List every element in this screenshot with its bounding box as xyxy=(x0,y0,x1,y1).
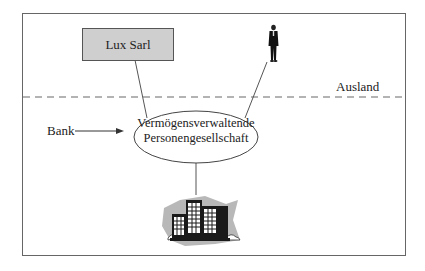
abroad-label: Ausland xyxy=(336,80,379,93)
connector-lux-to-partnership xyxy=(135,60,147,118)
bank-label: Bank xyxy=(47,124,74,137)
connector-person-to-partnership xyxy=(245,62,267,118)
partnership-label-line2: Personengesellschaft xyxy=(133,131,259,146)
office-building-icon xyxy=(162,196,240,246)
partnership-label: Vermögensverwaltende Personengesellschaf… xyxy=(133,116,259,146)
bank-arrow-head-icon xyxy=(116,128,124,134)
diagram: Lux Sarl Ausland Bank Vermögensverwalten… xyxy=(0,0,425,271)
lux-sarl-label: Lux Sarl xyxy=(105,37,150,53)
partnership-label-line1: Vermögensverwaltende xyxy=(133,116,259,131)
lux-sarl-box: Lux Sarl xyxy=(82,28,174,61)
businessman-icon xyxy=(269,25,279,62)
